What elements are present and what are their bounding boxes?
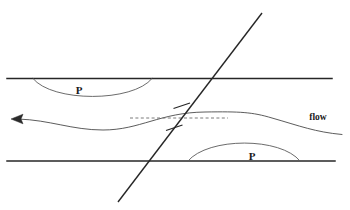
lower-phase-label: P: [249, 150, 256, 162]
flow-direction-label: flow: [309, 112, 327, 122]
shear-flow-diagram: P P flow: [0, 0, 350, 210]
lower-interface-arc: [188, 143, 300, 161]
flow-streamline: [18, 112, 342, 135]
shear-plane-line: [118, 13, 262, 202]
flow-arrowhead-icon: [11, 114, 23, 124]
diagram-canvas: P P flow: [0, 0, 350, 210]
tick-mark-upper: [174, 103, 191, 109]
upper-interface-arc: [33, 79, 152, 97]
tick-mark-lower: [166, 125, 183, 131]
upper-phase-label: P: [76, 84, 83, 96]
